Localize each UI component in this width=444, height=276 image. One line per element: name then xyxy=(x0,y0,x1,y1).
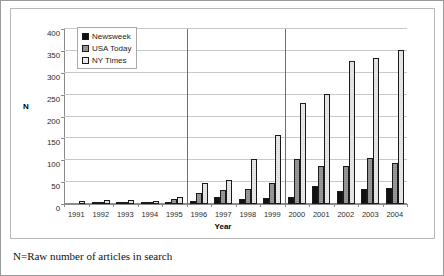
bar-ny-times-2004 xyxy=(398,50,404,204)
y-tick-mark-100 xyxy=(61,160,64,161)
x-tick-mark xyxy=(309,204,310,207)
bar-group xyxy=(260,29,285,204)
legend-swatch-icon xyxy=(82,57,89,64)
bar-ny-times-1999 xyxy=(275,135,281,204)
x-tick-mark xyxy=(162,204,163,207)
bar-group xyxy=(285,29,310,204)
reference-line-after-1995 xyxy=(187,29,188,205)
bar-group xyxy=(309,29,334,204)
x-tick-mark xyxy=(113,204,114,207)
y-tick-mark-250 xyxy=(61,95,64,96)
y-tick-mark-200 xyxy=(61,117,64,118)
y-axis-title: N xyxy=(23,102,29,111)
bar-ny-times-2003 xyxy=(373,58,379,204)
bar-group xyxy=(383,29,408,204)
legend-swatch-icon xyxy=(82,45,89,52)
bar-group xyxy=(236,29,261,204)
y-axis-tick-labels: 050100150200250300350400 xyxy=(29,29,60,204)
bar-ny-times-1996 xyxy=(202,183,208,204)
legend-label: NY Times xyxy=(92,56,127,65)
bar-ny-times-2000 xyxy=(300,103,306,204)
bar-group xyxy=(358,29,383,204)
x-tick-label-2002: 2002 xyxy=(337,210,354,219)
x-tick-label-2001: 2001 xyxy=(313,210,330,219)
legend-item-ny-times: NY Times xyxy=(82,55,131,65)
x-tick-mark xyxy=(89,204,90,207)
bar-group xyxy=(211,29,236,204)
y-tick-mark-50 xyxy=(61,182,64,183)
x-tick-label-1996: 1996 xyxy=(190,210,207,219)
x-tick-mark xyxy=(407,204,408,207)
x-tick-label-1992: 1992 xyxy=(92,210,109,219)
x-tick-label-2000: 2000 xyxy=(288,210,305,219)
x-tick-label-2004: 2004 xyxy=(386,210,403,219)
figure-caption: N=Raw number of articles in search xyxy=(13,250,172,262)
x-tick-label-1993: 1993 xyxy=(117,210,134,219)
x-tick-mark xyxy=(260,204,261,207)
bar-group xyxy=(334,29,359,204)
bar-ny-times-1997 xyxy=(226,180,232,204)
legend-label: Newsweek xyxy=(92,32,131,41)
x-tick-label-2003: 2003 xyxy=(362,210,379,219)
y-tick-mark-350 xyxy=(61,51,64,52)
x-tick-mark xyxy=(211,204,212,207)
x-tick-label-1995: 1995 xyxy=(166,210,183,219)
x-tick-mark xyxy=(138,204,139,207)
bar-group xyxy=(138,29,163,204)
legend-swatch-icon xyxy=(82,33,89,40)
y-tick-mark-300 xyxy=(61,73,64,74)
legend-item-newsweek: Newsweek xyxy=(82,31,131,41)
bar-ny-times-1995 xyxy=(177,197,183,204)
y-tick-mark-150 xyxy=(61,138,64,139)
x-tick-mark xyxy=(236,204,237,207)
x-tick-mark xyxy=(285,204,286,207)
x-tick-label-1997: 1997 xyxy=(215,210,232,219)
x-tick-mark xyxy=(383,204,384,207)
x-tick-mark xyxy=(64,204,65,207)
x-tick-mark xyxy=(334,204,335,207)
bar-ny-times-1998 xyxy=(251,159,257,204)
x-tick-label-1994: 1994 xyxy=(141,210,158,219)
y-tick-mark-400 xyxy=(61,29,64,30)
x-tick-label-1999: 1999 xyxy=(264,210,281,219)
bar-group xyxy=(162,29,187,204)
legend-label: USA Today xyxy=(92,44,131,53)
bar-group xyxy=(187,29,212,204)
bar-ny-times-2002 xyxy=(349,61,355,204)
reference-line-after-1999 xyxy=(285,29,286,205)
x-tick-mark xyxy=(187,204,188,207)
x-tick-label-1991: 1991 xyxy=(68,210,85,219)
x-tick-label-1998: 1998 xyxy=(239,210,256,219)
x-tick-mark xyxy=(358,204,359,207)
legend-item-usa-today: USA Today xyxy=(82,43,131,53)
figure-container: N 050100150200250300350400 1991199219931… xyxy=(0,0,444,276)
chart-legend: NewsweekUSA TodayNY Times xyxy=(77,27,137,69)
bar-ny-times-2001 xyxy=(324,94,330,204)
x-axis-title: Year xyxy=(1,222,444,231)
